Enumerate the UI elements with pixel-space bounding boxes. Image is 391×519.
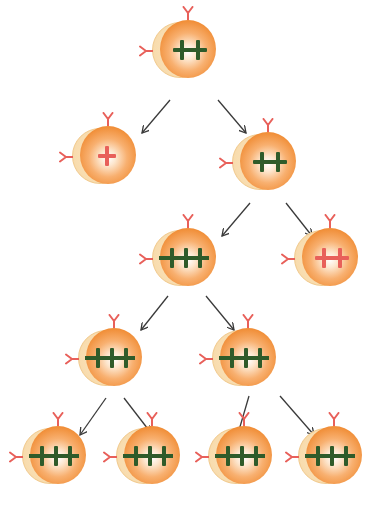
receptor-icon bbox=[10, 450, 20, 462]
receptor-icon bbox=[140, 44, 150, 56]
plus-mark-icon bbox=[155, 446, 173, 466]
receptor-icon bbox=[196, 450, 206, 462]
mutation-marks bbox=[173, 40, 205, 60]
cell-gen3-left bbox=[150, 222, 220, 292]
receptor-icon bbox=[140, 252, 150, 264]
receptor-icon bbox=[52, 412, 62, 424]
plus-mark-icon bbox=[61, 446, 79, 466]
plus-mark-icon bbox=[189, 40, 207, 60]
cell-gen5-1 bbox=[20, 420, 90, 490]
cell-gen3-right bbox=[292, 222, 362, 292]
receptor-icon bbox=[242, 314, 252, 326]
receptor-icon bbox=[146, 412, 156, 424]
receptor-icon bbox=[328, 412, 338, 424]
cell-gen2-left bbox=[70, 120, 140, 190]
receptor-icon bbox=[182, 6, 192, 18]
mutation-marks bbox=[309, 446, 351, 466]
cell-gen4-left bbox=[76, 322, 146, 392]
receptor-icon bbox=[286, 450, 296, 462]
plus-mark-icon bbox=[117, 348, 135, 368]
receptor-icon bbox=[182, 214, 192, 226]
mutation-marks bbox=[219, 446, 261, 466]
mutation-marks bbox=[98, 146, 114, 166]
plus-mark-icon bbox=[191, 248, 209, 268]
receptor-icon bbox=[104, 450, 114, 462]
receptor-icon bbox=[66, 352, 76, 364]
receptor-icon bbox=[102, 112, 112, 124]
cell-gen5-3 bbox=[206, 420, 276, 490]
plus-mark-icon bbox=[247, 446, 265, 466]
mutation-marks bbox=[89, 348, 131, 368]
plus-mark-icon bbox=[331, 248, 349, 268]
mutation-marks bbox=[253, 152, 285, 172]
plus-mark-icon bbox=[98, 146, 116, 166]
mutation-marks bbox=[315, 248, 347, 268]
plus-mark-icon bbox=[269, 152, 287, 172]
cell-lineage-diagram bbox=[0, 0, 391, 519]
cell-gen2-right bbox=[230, 126, 300, 196]
mutation-marks bbox=[33, 446, 75, 466]
receptor-icon bbox=[262, 118, 272, 130]
receptor-icon bbox=[108, 314, 118, 326]
mutation-marks bbox=[127, 446, 169, 466]
cell-gen5-2 bbox=[114, 420, 184, 490]
plus-mark-icon bbox=[337, 446, 355, 466]
arrow-gen1-to-gen2-left bbox=[142, 100, 170, 133]
mutation-marks bbox=[223, 348, 265, 368]
receptor-icon bbox=[200, 352, 210, 364]
plus-mark-icon bbox=[251, 348, 269, 368]
cell-gen1 bbox=[150, 14, 220, 84]
receptor-icon bbox=[282, 252, 292, 264]
receptor-icon bbox=[60, 150, 70, 162]
receptor-icon bbox=[324, 214, 334, 226]
receptor-icon bbox=[220, 156, 230, 168]
cell-gen5-4 bbox=[296, 420, 366, 490]
mutation-marks bbox=[163, 248, 205, 268]
arrow-gen2-right-to-gen3-left bbox=[222, 203, 250, 236]
receptor-icon bbox=[238, 412, 248, 424]
cell-gen4-right bbox=[210, 322, 280, 392]
